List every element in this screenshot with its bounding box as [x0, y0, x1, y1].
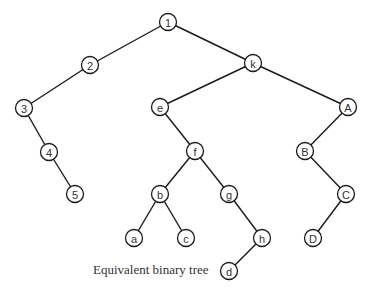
svg-text:h: h: [259, 233, 265, 245]
svg-text:d: d: [226, 266, 232, 278]
tree-node-d: d: [221, 263, 238, 280]
tree-node-e: e: [152, 99, 169, 116]
tree-node-g: g: [221, 186, 238, 203]
svg-text:g: g: [226, 189, 232, 201]
tree-node-1: 1: [160, 14, 177, 31]
svg-text:2: 2: [87, 60, 93, 72]
svg-text:b: b: [157, 189, 163, 201]
tree-node-B: B: [297, 143, 314, 160]
binary-tree-diagram: 12k3eA4fB5bgCachDd: [0, 0, 371, 294]
edge-A-B: [305, 107, 348, 151]
edge-1-2: [90, 22, 168, 65]
svg-text:1: 1: [165, 17, 171, 29]
tree-node-3: 3: [16, 100, 33, 117]
svg-text:c: c: [183, 233, 189, 245]
svg-text:k: k: [250, 58, 256, 70]
svg-text:A: A: [344, 102, 352, 114]
tree-node-f: f: [187, 143, 204, 160]
tree-node-C: C: [338, 186, 355, 203]
tree-node-5: 5: [67, 186, 84, 203]
tree-node-k: k: [245, 55, 262, 72]
tree-node-a: a: [126, 230, 143, 247]
edge-1-k: [168, 22, 253, 63]
tree-node-4: 4: [41, 144, 58, 161]
tree-node-b: b: [152, 186, 169, 203]
svg-text:4: 4: [46, 147, 52, 159]
svg-text:5: 5: [72, 189, 78, 201]
edge-k-e: [160, 63, 253, 107]
diagram-caption: Equivalent binary tree: [93, 262, 209, 278]
tree-node-h: h: [254, 230, 271, 247]
svg-text:C: C: [342, 189, 350, 201]
svg-text:a: a: [131, 233, 138, 245]
edge-k-A: [253, 63, 348, 107]
tree-node-2: 2: [82, 57, 99, 74]
edge-2-3: [24, 65, 90, 108]
tree-nodes: 12k3eA4fB5bgCachDd: [16, 14, 357, 280]
svg-text:3: 3: [21, 103, 27, 115]
svg-text:e: e: [157, 102, 163, 114]
svg-text:B: B: [301, 146, 308, 158]
svg-text:D: D: [309, 233, 317, 245]
tree-node-c: c: [178, 230, 195, 247]
tree-node-A: A: [340, 99, 357, 116]
tree-node-D: D: [305, 230, 322, 247]
